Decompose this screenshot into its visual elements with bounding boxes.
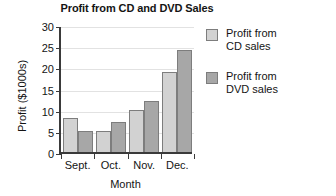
plot-area: 051015202530 Sept.Oct.Nov.Dec.	[59, 27, 192, 154]
legend-label-dvd-sales: Profit fromDVD sales	[226, 70, 278, 96]
legend-swatch-dvd-sales	[206, 72, 218, 84]
chart-legend: Profit fromCD sales Profit fromDVD sales	[206, 27, 334, 113]
bar	[162, 72, 177, 152]
bar-groups	[61, 25, 194, 152]
x-tick-mark	[94, 154, 95, 159]
legend-label-cd-line2: CD sales	[226, 40, 271, 52]
bar	[144, 101, 159, 152]
x-axis-title: Month	[59, 178, 192, 190]
legend-label-cd-sales: Profit fromCD sales	[226, 27, 277, 53]
bar-group	[96, 25, 126, 152]
x-tick-mark	[61, 154, 62, 159]
bar	[63, 118, 78, 152]
x-tick-mark	[128, 154, 129, 159]
legend-label-cd-line1: Profit from	[226, 27, 277, 39]
bar-chart-figure: Profit from CD and DVD Sales Profit ($10…	[0, 0, 336, 196]
bar	[177, 50, 192, 152]
y-tick-label: 20	[42, 63, 54, 75]
legend-swatch-cd-sales	[206, 29, 218, 41]
bar	[78, 131, 93, 152]
y-tick-label: 15	[42, 85, 54, 97]
bar-group	[162, 25, 192, 152]
chart-title: Profit from CD and DVD Sales	[48, 2, 226, 14]
legend-label-dvd-line2: DVD sales	[226, 83, 278, 95]
y-tick-label: 25	[42, 42, 54, 54]
y-tick-label: 5	[48, 127, 54, 139]
legend-entry-dvd-sales: Profit fromDVD sales	[206, 70, 334, 96]
y-tick-label: 10	[42, 106, 54, 118]
legend-label-dvd-line1: Profit from	[226, 70, 277, 82]
bar	[129, 110, 144, 152]
bar	[111, 122, 126, 152]
y-tick-label: 0	[48, 148, 54, 160]
y-tick-label: 30	[42, 21, 54, 33]
bar-group	[129, 25, 159, 152]
y-axis-title: Profit ($1000s)	[16, 36, 28, 156]
bar-group	[63, 25, 93, 152]
x-tick-label: Sept.	[65, 159, 91, 171]
x-tick-label: Nov.	[133, 159, 155, 171]
legend-entry-cd-sales: Profit fromCD sales	[206, 27, 334, 53]
x-tick-mark	[194, 154, 195, 159]
bar	[96, 131, 111, 152]
x-tick-label: Dec.	[166, 159, 189, 171]
x-tick-mark	[161, 154, 162, 159]
x-tick-label: Oct.	[101, 159, 121, 171]
